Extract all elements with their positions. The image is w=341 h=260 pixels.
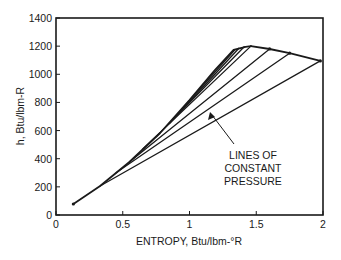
x-axis-title: ENTROPY, Btu/lbm-°R bbox=[136, 235, 243, 247]
saturated-vapor-line bbox=[251, 46, 320, 61]
x-tick-label: 1 bbox=[187, 218, 193, 230]
x-axis-ticks: 00.511.52 bbox=[53, 211, 326, 230]
annotation-line-2: CONSTANT bbox=[225, 162, 283, 174]
plot-frame bbox=[56, 18, 323, 215]
y-tick-label: 1000 bbox=[29, 68, 53, 80]
junction-marker bbox=[268, 47, 271, 50]
y-tick-label: 800 bbox=[34, 96, 52, 108]
y-tick-label: 600 bbox=[34, 125, 52, 137]
junction-marker bbox=[288, 52, 291, 55]
data-series bbox=[72, 46, 322, 206]
junction-marker bbox=[72, 202, 75, 205]
y-tick-label: 200 bbox=[34, 181, 52, 193]
x-tick-label: 2 bbox=[320, 218, 326, 230]
annotation-line-3: PRESSURE bbox=[224, 175, 282, 187]
y-tick-label: 1400 bbox=[29, 12, 53, 24]
junction-marker bbox=[319, 59, 322, 62]
y-tick-label: 1200 bbox=[29, 40, 53, 52]
y-tick-label: 400 bbox=[34, 153, 52, 165]
enthalpy-entropy-chart: 00.511.52 0200400600800100012001400 LINE… bbox=[0, 0, 341, 260]
x-tick-label: 1.5 bbox=[249, 218, 264, 230]
x-tick-label: 0 bbox=[53, 218, 59, 230]
annotation-line-1: LINES OF bbox=[229, 149, 277, 161]
constant-pressure-line bbox=[183, 50, 235, 108]
constant-pressure-line bbox=[129, 49, 269, 162]
y-tick-label: 0 bbox=[46, 209, 52, 221]
x-tick-label: 0.5 bbox=[115, 218, 130, 230]
y-axis-title: h, Btu/lbm-R bbox=[14, 86, 26, 145]
